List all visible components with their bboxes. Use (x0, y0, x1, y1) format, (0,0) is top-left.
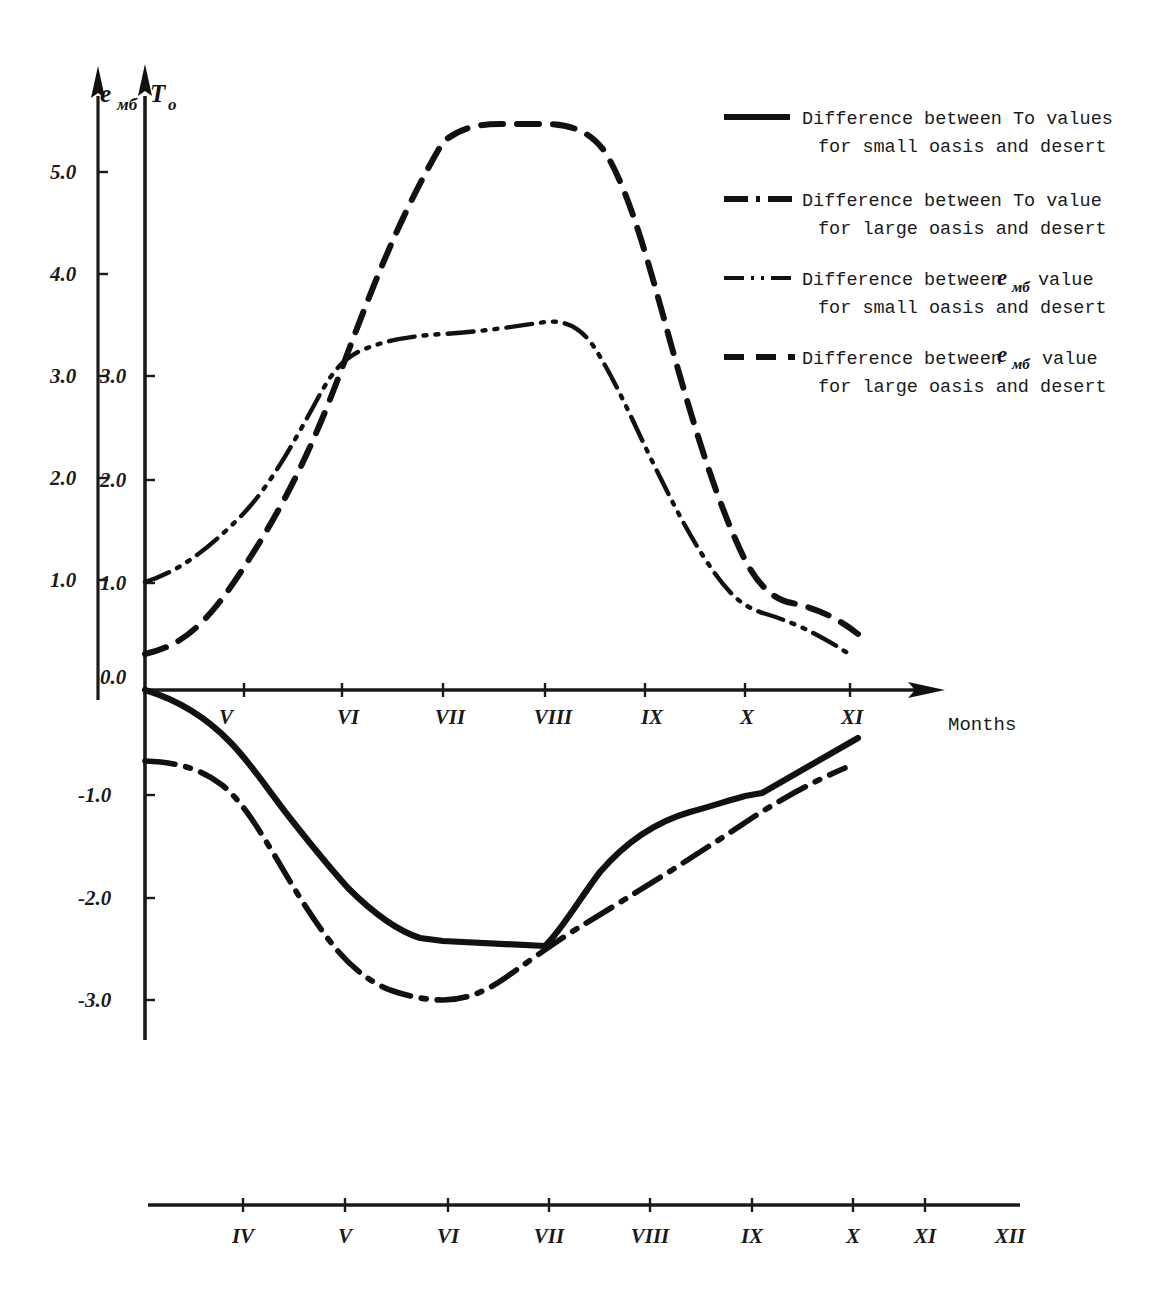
bottom-scale-bar: IV V VI VII VIII IX X XI XII (148, 1198, 1026, 1248)
right-tick-label: 3.0 (99, 364, 127, 388)
left-axis-tick-labels: 5.0 4.0 3.0 2.0 1.0 (49, 160, 77, 592)
right-axis-symbol-letter: T (150, 80, 167, 107)
chart-canvas: e мб T o 5.0 4.0 3.0 2.0 1.0 3.0 2.0 1.0… (0, 0, 1161, 1296)
scale-bar-label: XII (994, 1224, 1026, 1248)
scale-bar-label: XI (913, 1224, 937, 1248)
x-axis-caption: Months (948, 714, 1016, 736)
legend-line1-symbol-subscript: мб (1011, 279, 1030, 295)
legend-line1-pre: Difference between (802, 349, 1002, 370)
scale-bar-label: X (845, 1224, 861, 1248)
right-tick-label: 0.0 (100, 665, 127, 689)
legend-line1-symbol-subscript: мб (1011, 356, 1030, 372)
series-emb-small-oasis (145, 322, 852, 656)
legend-item-emb-small-oasis: Difference between e мб value for small … (724, 265, 1107, 319)
right-axis-symbol: T o (150, 80, 177, 114)
left-tick-label: 3.0 (49, 364, 77, 388)
left-axis-symbol-subscript: мб (116, 95, 139, 114)
scale-bar-label: V (338, 1224, 354, 1248)
chart-figure: e мб T o 5.0 4.0 3.0 2.0 1.0 3.0 2.0 1.0… (0, 0, 1161, 1296)
legend-line2: for large oasis and desert (818, 219, 1107, 240)
legend-line2: for large oasis and desert (818, 377, 1107, 398)
left-axis-symbol-letter: e (100, 80, 111, 107)
legend-item-to-large-oasis: Difference between To value for large oa… (724, 191, 1107, 240)
left-tick-label: 2.0 (49, 466, 77, 490)
month-label: VIII (534, 705, 573, 729)
right-tick-label: -1.0 (78, 783, 112, 807)
scale-bar-label: VI (437, 1224, 460, 1248)
left-tick-label: 1.0 (50, 568, 77, 592)
legend-line1-post: value (1038, 270, 1094, 291)
legend-line1: Difference between To values (802, 109, 1113, 130)
month-label: VI (337, 705, 360, 729)
legend-line1-symbol: e (997, 342, 1007, 367)
left-axis-symbol: e мб (100, 80, 139, 114)
right-tick-label: -2.0 (78, 886, 112, 910)
scale-bar-label: IX (740, 1224, 764, 1248)
right-tick-label: 1.0 (100, 571, 127, 595)
legend-line1-pre: Difference between (802, 270, 1002, 291)
month-label: X (739, 705, 755, 729)
legend-item-emb-large-oasis: Difference between e мб value for large … (724, 342, 1107, 398)
right-value-axis (138, 64, 155, 1040)
series-emb-large-oasis (145, 124, 858, 654)
x-axis (145, 682, 945, 698)
legend-item-to-small-oasis: Difference between To values for small o… (724, 109, 1113, 158)
month-label: V (219, 705, 235, 729)
legend-line2: for small oasis and desert (818, 137, 1107, 158)
legend-line1-post: value (1042, 349, 1098, 370)
right-tick-label: 2.0 (99, 468, 127, 492)
legend-line1-symbol: e (997, 265, 1007, 290)
left-tick-label: 4.0 (49, 262, 77, 286)
month-label: XI (840, 705, 864, 729)
legend-line1: Difference between To value (802, 191, 1102, 212)
month-tick-labels: V VI VII VIII IX X XI (219, 705, 864, 729)
month-label: IX (640, 705, 664, 729)
right-axis-tick-labels: 3.0 2.0 1.0 0.0 -1.0 -2.0 -3.0 (78, 364, 127, 1012)
scale-bar-label: VII (534, 1224, 565, 1248)
right-tick-label: -3.0 (78, 988, 112, 1012)
month-label: VII (435, 705, 466, 729)
scale-bar-label: IV (231, 1224, 256, 1248)
left-tick-label: 5.0 (50, 160, 77, 184)
chart-legend: Difference between To values for small o… (724, 109, 1113, 398)
legend-line2: for small oasis and desert (818, 298, 1107, 319)
scale-bar-label: VIII (631, 1224, 670, 1248)
right-axis-symbol-subscript: o (168, 95, 177, 114)
